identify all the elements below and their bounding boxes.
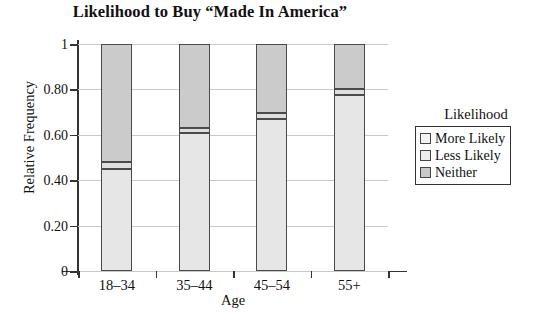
x-tick-label: 18–34 [72,277,162,294]
y-tick-mark [70,44,78,46]
x-tick-mark [388,271,390,278]
y-tick-label: 1 [12,37,68,53]
x-tick-label: 55+ [304,277,394,294]
x-tick-mark [78,271,80,278]
bar-segment-more-likely[interactable] [101,169,132,271]
y-tick-label: 0.20 [12,219,68,235]
legend-label-more-likely: More Likely [435,132,505,146]
plot-area [78,44,388,271]
x-tick-label: 35–44 [149,277,239,294]
legend-label-neither: Neither [435,166,477,180]
bar-segment-less-likely[interactable] [179,128,210,133]
y-tick-label: 0.60 [12,128,68,144]
bar-stack[interactable] [179,44,210,271]
legend-item-more-likely[interactable]: More Likely [420,130,505,147]
y-tick-mark [70,226,78,228]
bar-segment-less-likely[interactable] [256,113,287,119]
bar-segment-neither[interactable] [179,44,210,128]
x-tick-mark [156,271,158,278]
y-tick-mark [70,271,78,273]
y-tick-mark [70,89,78,91]
swatch-less-likely-icon [420,150,431,161]
y-tick-label: 0.80 [12,82,68,98]
legend-item-neither[interactable]: Neither [420,164,505,181]
bar-stack[interactable] [101,44,132,271]
chart-container: Likelihood to Buy “Made In America” Rela… [0,0,552,316]
bar-stack[interactable] [334,44,365,271]
x-tick-mark [233,271,235,278]
x-tick-label: 45–54 [227,277,317,294]
legend-item-less-likely[interactable]: Less Likely [420,147,505,164]
y-tick-label: 0 [12,264,68,280]
chart-title: Likelihood to Buy “Made In America” [0,2,420,22]
bar-segment-more-likely[interactable] [334,95,365,271]
bar-segment-neither[interactable] [101,44,132,162]
legend-title: Likelihood [415,106,537,123]
legend: Likelihood More Likely Less Likely Neith… [415,106,543,185]
x-tick-mark [311,271,313,278]
legend-label-less-likely: Less Likely [435,149,501,163]
bar-stack[interactable] [256,44,287,271]
y-tick-mark [70,180,78,182]
x-axis-title: Age [78,292,388,309]
bar-segment-more-likely[interactable] [256,119,287,271]
bar-segment-more-likely[interactable] [179,133,210,271]
bar-segment-neither[interactable] [256,44,287,113]
bar-segment-less-likely[interactable] [334,89,365,95]
y-tick-mark [70,135,78,137]
swatch-more-likely-icon [420,133,431,144]
bar-segment-neither[interactable] [334,44,365,89]
legend-box: More Likely Less Likely Neither [415,126,511,185]
bar-segment-less-likely[interactable] [101,162,132,169]
y-tick-label: 0.40 [12,173,68,189]
swatch-neither-icon [420,167,431,178]
